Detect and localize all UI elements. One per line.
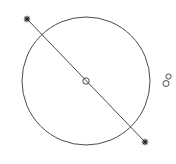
circle-diameter-diagram bbox=[0, 0, 176, 164]
figure-eight-upper-loop bbox=[166, 74, 171, 79]
star-marker-icon bbox=[24, 16, 30, 22]
diameter-line bbox=[27, 19, 145, 142]
star-marker-icon bbox=[142, 139, 148, 145]
figure-eight-lower-loop bbox=[163, 81, 169, 87]
figure-eight-icon bbox=[163, 74, 171, 87]
